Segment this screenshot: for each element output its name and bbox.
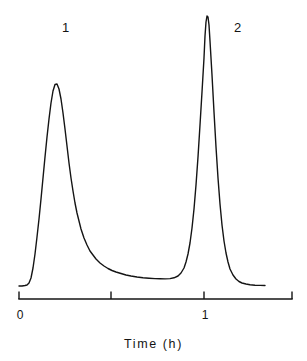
x-axis-group [19,292,292,300]
chromatogram-figure: 1 2 0 1 Time (h) [0,0,307,361]
x-axis-title: Time (h) [0,338,307,351]
x-tick-label-0: 0 [10,309,30,321]
peak-label-1: 1 [62,21,69,34]
x-tick-label-1: 1 [195,309,215,321]
signal-trace-group [19,16,265,286]
peak-label-2: 2 [234,21,241,34]
signal-trace [19,16,265,286]
chromatogram-plot [0,0,307,361]
x-axis-ticks [19,292,292,300]
